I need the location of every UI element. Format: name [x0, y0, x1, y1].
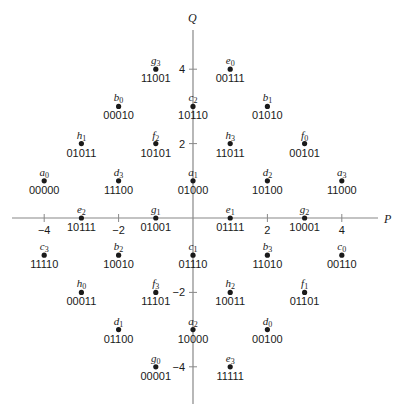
constellation-point: h210011	[215, 277, 245, 307]
point-bits: 11100	[104, 184, 133, 196]
q-axis-label: Q	[188, 11, 197, 25]
axes: PQ−4−22442−2−4	[12, 11, 392, 404]
x-tick-label: 2	[264, 224, 270, 236]
constellation-point: f101101	[290, 277, 320, 307]
point-bits: 10110	[178, 109, 208, 121]
point-bits: 11010	[253, 258, 283, 270]
point-symbol: e3	[226, 352, 235, 366]
point-symbol: c3	[40, 240, 49, 254]
point-bits: 10101	[141, 147, 172, 159]
point-bits: 10000	[178, 333, 209, 345]
point-symbol: e0	[226, 54, 235, 68]
constellation-point: a101000	[178, 166, 209, 196]
point-symbol: f3	[152, 277, 159, 291]
constellation-point: b101010	[252, 91, 283, 121]
point-bits: 11101	[141, 295, 170, 307]
constellation-point: a210000	[178, 315, 209, 345]
point-bits: 00111	[216, 72, 245, 84]
y-tick-label: 2	[179, 138, 185, 150]
point-symbol: h3	[225, 129, 235, 143]
point-symbol: d1	[114, 315, 124, 329]
constellation-point: d210100	[252, 166, 283, 196]
point-symbol: g1	[151, 203, 161, 217]
y-tick-label: 4	[179, 63, 185, 75]
y-tick-label: −4	[172, 361, 185, 373]
point-symbol: b1	[263, 91, 273, 105]
point-bits: 10010	[103, 258, 134, 270]
constellation-point: f000101	[289, 129, 320, 159]
point-symbol: g3	[151, 54, 161, 68]
constellation-point: c000110	[327, 240, 357, 270]
point-symbol: b0	[114, 91, 124, 105]
point-bits: 01100	[104, 333, 134, 345]
constellation-point: b000010	[103, 91, 134, 121]
point-symbol: h2	[225, 277, 235, 291]
point-symbol: f2	[152, 129, 159, 143]
constellation-point: c210110	[178, 91, 208, 121]
constellation-point: e000111	[216, 54, 245, 84]
point-symbol: e2	[77, 203, 86, 217]
point-bits: 00011	[67, 295, 97, 307]
constellation-point: d311100	[104, 166, 133, 196]
p-axis-label: P	[383, 212, 392, 226]
point-symbol: c0	[337, 240, 346, 254]
constellation-point: g311001	[141, 54, 171, 84]
point-bits: 01101	[290, 295, 320, 307]
point-symbol: a3	[337, 166, 347, 180]
x-tick-label: −2	[112, 224, 125, 236]
point-symbol: d2	[263, 166, 273, 180]
point-bits: 01110	[179, 258, 208, 270]
point-bits: 10100	[252, 184, 283, 196]
point-symbol: h0	[77, 277, 87, 291]
constellation-point: h101011	[67, 129, 97, 159]
point-bits: 01001	[141, 221, 172, 233]
point-bits: 00010	[103, 109, 134, 121]
point-symbol: f0	[301, 129, 308, 143]
point-bits: 11001	[141, 72, 171, 84]
point-bits: 01000	[178, 184, 209, 196]
constellation-point: a000000	[29, 166, 60, 196]
point-symbol: g0	[151, 352, 161, 366]
point-bits: 10001	[289, 221, 320, 233]
constellation-point: h000011	[67, 277, 97, 307]
point-symbol: h1	[77, 129, 87, 143]
point-symbol: d0	[263, 315, 273, 329]
constellation-point: c101110	[179, 240, 208, 270]
point-bits: 11110	[30, 258, 58, 270]
point-bits: 11111	[217, 370, 244, 382]
point-symbol: b3	[263, 240, 273, 254]
constellation-point: f210101	[141, 129, 172, 159]
x-tick-label: −4	[38, 224, 51, 236]
constellation-point: b210010	[103, 240, 134, 270]
point-symbol: a1	[188, 166, 198, 180]
point-bits: 01011	[67, 147, 97, 159]
constellation-point: d000100	[252, 315, 283, 345]
point-bits: 00101	[289, 147, 320, 159]
point-symbol: c1	[189, 240, 198, 254]
constellation-plot: PQ−4−22442−2−4 g311001e000111b000010c210…	[0, 0, 404, 411]
point-symbol: a0	[39, 166, 49, 180]
point-symbol: f1	[301, 277, 308, 291]
constellation-diagram: PQ−4−22442−2−4 g311001e000111b000010c210…	[0, 0, 404, 411]
point-symbol: g2	[300, 203, 310, 217]
point-bits: 10111	[67, 221, 96, 233]
constellation-point: b311010	[253, 240, 283, 270]
point-bits: 01111	[216, 221, 244, 233]
constellation-point: d101100	[104, 315, 134, 345]
point-symbol: d3	[114, 166, 124, 180]
point-symbol: e1	[226, 203, 235, 217]
point-symbol: c2	[189, 91, 198, 105]
point-bits: 11000	[327, 184, 357, 196]
point-bits: 00100	[252, 333, 283, 345]
constellation-point: e311111	[217, 352, 244, 382]
point-bits: 00000	[29, 184, 60, 196]
point-bits: 00001	[141, 370, 172, 382]
point-bits: 01010	[252, 109, 283, 121]
point-symbol: b2	[114, 240, 124, 254]
constellation-point: h311011	[216, 129, 245, 159]
y-tick-label: −2	[172, 286, 185, 298]
point-bits: 10011	[215, 295, 245, 307]
point-symbol: a2	[188, 315, 198, 329]
constellation-point: f311101	[141, 277, 170, 307]
point-bits: 00110	[327, 258, 357, 270]
